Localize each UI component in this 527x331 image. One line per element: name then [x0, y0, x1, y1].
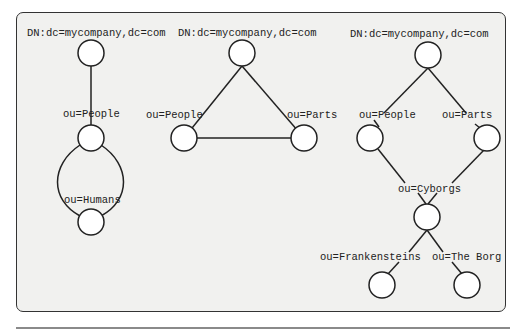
triangle-diagram-edges	[184, 66, 304, 138]
edge-root-parts	[242, 66, 304, 138]
label-humans: ou=Humans	[64, 194, 121, 206]
ldap-diagrams: DN:dc=mycompany,dc=com ou=People ou=Huma…	[0, 0, 527, 331]
label-borg: ou=The Borg	[432, 251, 501, 263]
label-parts: ou=Parts	[287, 109, 337, 121]
edge-people-cyborgs	[378, 149, 405, 183]
label-people: ou=People	[63, 108, 120, 120]
label-people: ou=People	[146, 109, 203, 121]
node-root	[229, 40, 255, 66]
node-people	[171, 125, 197, 151]
node-people	[78, 125, 104, 151]
edge-root-people	[384, 68, 428, 113]
dag-diagram-edges	[374, 68, 484, 274]
node-people	[357, 125, 383, 151]
node-parts	[474, 125, 500, 151]
horizontal-rule	[16, 327, 510, 329]
label-root: DN:dc=mycompany,dc=com	[350, 28, 489, 40]
edge-parts-cyborgs	[452, 150, 484, 183]
node-root	[78, 40, 104, 66]
node-parts	[291, 125, 317, 151]
node-borg	[454, 272, 480, 298]
label-parts: ou=Parts	[442, 109, 492, 121]
node-humans	[78, 209, 104, 235]
label-root: DN:dc=mycompany,dc=com	[178, 27, 317, 39]
label-root: DN:dc=mycompany,dc=com	[27, 27, 166, 39]
label-people: ou=People	[359, 109, 416, 121]
edge-root-parts	[428, 68, 466, 113]
edge-frankensteins-node	[388, 262, 399, 274]
node-root	[415, 42, 441, 68]
label-frankensteins: ou=Frankensteins	[320, 251, 421, 263]
edge-cyborgs-frankensteins	[409, 230, 427, 252]
node-frankensteins	[369, 272, 395, 298]
edge-borg-node	[452, 262, 462, 274]
edge-root-people	[184, 66, 242, 138]
node-cyborgs	[414, 204, 440, 230]
label-cyborgs: ou=Cyborgs	[398, 183, 461, 195]
edge-cyborgs-borg	[427, 230, 443, 252]
